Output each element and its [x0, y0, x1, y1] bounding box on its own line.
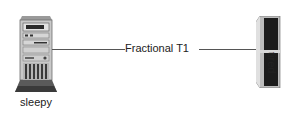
link-label: Fractional T1	[125, 42, 189, 54]
tower-server-icon	[14, 14, 58, 94]
node-label-tired: tired	[266, 52, 278, 73]
node-sleepy: sleepy	[14, 14, 58, 106]
link-line	[199, 49, 257, 50]
link-line	[52, 49, 125, 50]
node-tired: tired	[256, 16, 290, 88]
node-label-sleepy: sleepy	[14, 96, 58, 108]
